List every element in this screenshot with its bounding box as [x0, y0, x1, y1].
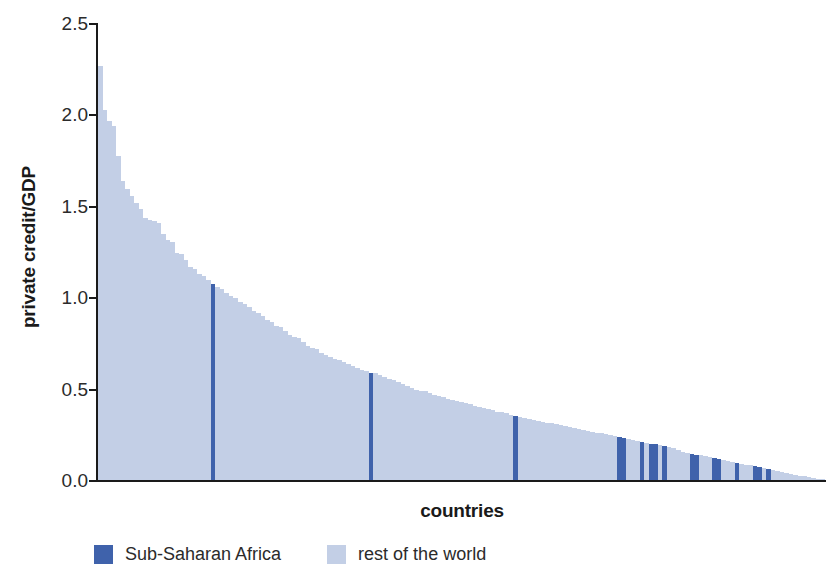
bar-series: [98, 24, 826, 481]
y-axis-tick-label: 1.5: [40, 196, 88, 218]
y-axis-tick-label: 0.5: [40, 379, 88, 401]
chart-figure: private credit/GDP 0.00.51.01.52.02.5 co…: [0, 0, 837, 580]
y-axis-tick-label: 1.0: [40, 287, 88, 309]
legend-swatch-icon: [94, 545, 113, 564]
x-axis-line: [89, 480, 826, 482]
legend-label: Sub-Saharan Africa: [125, 544, 281, 565]
y-axis-tick-labels: 0.00.51.01.52.02.5: [40, 0, 88, 580]
plot-area: [98, 24, 826, 481]
legend-swatch-icon: [327, 545, 346, 564]
legend-label: rest of the world: [358, 544, 486, 565]
y-axis-tick-label: 0.0: [40, 470, 88, 492]
legend-item[interactable]: rest of the world: [327, 544, 486, 565]
y-axis-tick-label: 2.0: [40, 104, 88, 126]
legend-item[interactable]: Sub-Saharan Africa: [94, 544, 281, 565]
y-axis-tick-label: 2.5: [40, 13, 88, 35]
chart-legend: Sub-Saharan Africarest of the world: [94, 541, 532, 567]
x-axis-title: countries: [98, 500, 826, 522]
